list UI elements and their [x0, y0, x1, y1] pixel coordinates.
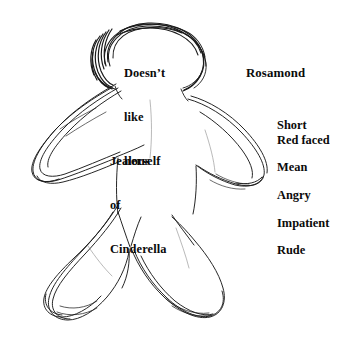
trait-item: Red faced	[277, 133, 330, 148]
trait-list: Short Red faced Mean Angry Impatient Rud…	[277, 118, 330, 258]
annotation-line: Doesn’t	[124, 66, 165, 81]
trait-item: Angry	[277, 188, 330, 203]
annotation-jealous-of-cinderella: Jealous of Cinderella	[110, 125, 167, 286]
annotation-line: Cinderella	[110, 242, 167, 257]
character-name-heading: Rosamond	[246, 66, 305, 81]
left-foot-lines	[57, 301, 97, 315]
annotation-line: of	[110, 198, 167, 213]
head-hair-scribble	[91, 29, 115, 89]
trait-item: Mean	[277, 160, 330, 175]
character-sketch-page: Doesn’t like herself Jealous of Cinderel…	[0, 0, 348, 337]
trait-item: Short	[277, 118, 330, 133]
annotation-line: Jealous	[110, 154, 167, 169]
trait-item: Rude	[277, 243, 330, 258]
left-hand-lines	[60, 108, 106, 136]
annotation-line: like	[124, 110, 165, 125]
right-arm-outline	[188, 96, 267, 186]
trait-item: Impatient	[277, 216, 330, 231]
